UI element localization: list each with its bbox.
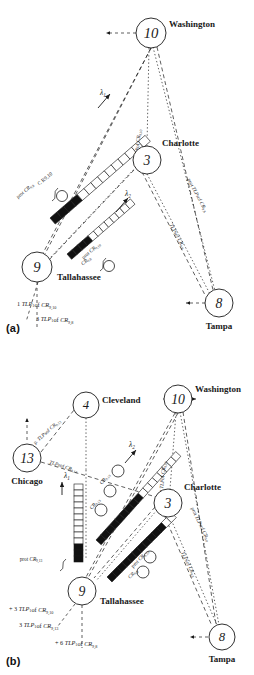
graph-node-washington[interactable]: 10Washington (164, 384, 241, 413)
node-number: 10 (144, 25, 159, 41)
graph-node-tampa[interactable]: 8Tampa (209, 624, 236, 664)
path-label: p. TLPsof CR9,13 (32, 418, 63, 447)
lambda-label: λ2 (124, 189, 131, 199)
node-number: 3 (143, 153, 151, 168)
footnote-label: + 3 TLP1of CR9,10 (9, 605, 53, 616)
panel-b-lambda1-ladder (74, 484, 83, 562)
node-city-label: Tallahassee (57, 272, 101, 282)
path-label: prot TLPsof CR9,8 (184, 177, 209, 214)
lambda-label: λ2 (128, 440, 135, 450)
graph-node-tallahassee[interactable]: 9Tallahassee (22, 252, 101, 282)
path-label: prot CR9,13 (20, 556, 43, 564)
path-label: prot TLPsof CR9,8 (188, 506, 212, 543)
node-city-label: Charlotte (184, 482, 221, 492)
node-city-label: Cleveland (102, 395, 141, 405)
panel-a-edges (26, 33, 215, 330)
figure-canvas: prot TLPof CR9,10prot TLPsof CR9,8TLPsof… (0, 0, 254, 675)
node-city-label: Tampa (209, 654, 236, 664)
graph-node-cleveland[interactable]: 4Cleveland (73, 392, 141, 418)
lambda-label: λ1 (63, 471, 70, 481)
node-number: 8 (219, 630, 226, 644)
panel-a-lambda2-ladder (67, 199, 135, 259)
lambda-label: λ1 (99, 88, 106, 98)
path-label: prot CR9,8 (15, 181, 36, 201)
panel-b-tag: (b) (6, 655, 21, 667)
lambda2-direction-arrow-b (125, 450, 136, 463)
panel-a-tag: (a) (6, 322, 20, 334)
node-city-label: Charlotte (162, 138, 199, 148)
prot-cr913-brace (60, 559, 66, 571)
graph-node-tampa[interactable]: 8Tampa (205, 289, 233, 331)
footnote-label: 3 TLP1of CR9,13 (19, 621, 58, 632)
graph-node-tallahassee[interactable]: 9Tallahassee (68, 577, 144, 606)
node-number: 10 (171, 392, 185, 407)
node-number: 3 (164, 496, 172, 511)
panel-b-edges (27, 399, 219, 648)
footnote-label: + 6 TLP1of CR9,8 (55, 639, 97, 650)
node-number: 8 (216, 296, 223, 311)
node-number: 4 (83, 398, 90, 412)
node-city-label: Washington (169, 19, 215, 29)
path-label: C R9,10 (36, 170, 53, 186)
path-label: CR9,10 (98, 472, 113, 487)
node-city-label: Tampa (206, 321, 233, 331)
node-city-label: Chicago (11, 476, 43, 486)
path-label: TLPsof CR9,8 (178, 550, 198, 579)
network-lightpath-figure: prot TLPof CR9,10prot TLPsof CR9,8TLPsof… (0, 0, 254, 675)
node-number: 9 (79, 584, 86, 599)
node-number: 13 (20, 451, 34, 466)
path-label: TLPsof CR9,8 (167, 222, 187, 250)
graph-node-chicago[interactable]: 13Chicago (11, 444, 43, 486)
footnote-label: 1 TLP1of CR9,10 (17, 300, 56, 311)
graph-node-washington[interactable]: 10Washington (136, 18, 215, 48)
path-label: CR9,8 (127, 567, 141, 581)
node-city-label: Washington (195, 384, 241, 394)
node-city-label: Tallahassee (100, 596, 144, 606)
footnote-label: 3 TLP1of CR9,8 (36, 315, 73, 326)
node-number: 9 (33, 259, 41, 275)
